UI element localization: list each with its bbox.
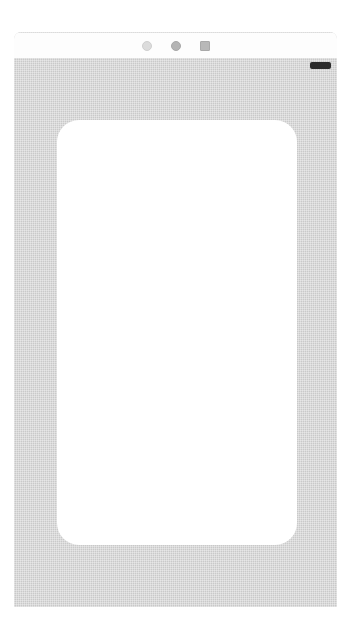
device-screen[interactable] — [57, 120, 297, 545]
square-icon[interactable] — [200, 41, 210, 51]
device-frame — [14, 32, 337, 607]
circle-filled-icon[interactable] — [171, 41, 181, 51]
status-strip-icon-group — [14, 33, 337, 58]
circle-outline-icon[interactable] — [142, 41, 152, 51]
page-canvas — [0, 0, 351, 641]
battery-indicator — [310, 62, 331, 69]
status-strip — [14, 33, 337, 58]
